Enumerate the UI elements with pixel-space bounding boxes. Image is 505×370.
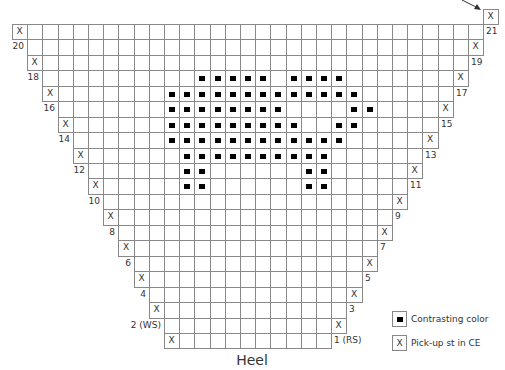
stitch-cell — [179, 302, 195, 319]
chart-caption: Heel — [212, 352, 292, 368]
row-label-3: 3 — [349, 302, 355, 317]
stitch-cell — [270, 70, 287, 87]
stitch-cell — [286, 271, 302, 288]
row-label-16: 16 — [44, 101, 55, 116]
stitch-cell — [407, 70, 423, 87]
stitch-cell — [286, 178, 302, 195]
stitch-cell — [407, 148, 423, 164]
stitch-cell — [255, 302, 271, 319]
stitch-cell — [194, 225, 211, 241]
contrasting-color-square — [336, 138, 342, 143]
stitch-cell — [210, 194, 226, 210]
stitch-cell — [255, 24, 271, 40]
stitch-cell — [301, 24, 317, 40]
stitch-cell — [149, 117, 165, 133]
stitch-cell — [316, 101, 332, 118]
stitch-cell — [301, 302, 317, 319]
stitch-cell — [240, 318, 256, 334]
stitch-cell — [362, 86, 378, 102]
stitch-cell — [73, 24, 89, 40]
stitch-cell — [103, 148, 119, 164]
row-label-8: 8 — [109, 225, 115, 240]
stitch-cell — [255, 39, 271, 56]
stitch-cell — [346, 194, 363, 210]
stitch-cell — [164, 178, 180, 195]
stitch-cell — [346, 209, 363, 226]
stitch-cell — [149, 194, 165, 210]
stitch-cell — [73, 70, 89, 87]
stitch-cell — [392, 39, 408, 56]
stitch-cell — [73, 39, 89, 56]
stitch-cell — [362, 240, 378, 257]
stitch-cell — [346, 271, 363, 288]
stitch-cell — [422, 117, 439, 133]
stitch-cell — [134, 256, 150, 272]
stitch-cell — [286, 333, 302, 349]
pickup-x-mark: X — [88, 178, 103, 193]
stitch-cell — [103, 39, 119, 56]
stitch-cell — [362, 163, 378, 179]
contrasting-color-square — [199, 154, 205, 159]
pickup-x-mark: X — [377, 225, 392, 240]
stitch-cell — [316, 55, 332, 71]
legend-contrasting-swatch — [392, 311, 407, 327]
stitch-cell — [134, 178, 150, 195]
stitch-cell — [194, 39, 211, 56]
stitch-cell — [316, 209, 332, 226]
stitch-cell — [270, 333, 287, 349]
contrasting-color-square — [245, 107, 251, 112]
stitch-cell — [118, 24, 135, 40]
contrasting-color-square — [321, 138, 327, 143]
stitch-cell — [179, 271, 195, 288]
stitch-cell — [362, 225, 378, 241]
stitch-cell — [240, 39, 256, 56]
stitch-cell — [194, 318, 211, 334]
contrasting-color-square — [245, 76, 251, 81]
row-label-1: 1 (RS) — [334, 333, 362, 348]
stitch-cell — [58, 39, 74, 56]
stitch-cell — [103, 132, 119, 149]
stitch-cell — [179, 24, 195, 40]
stitch-cell — [240, 24, 256, 40]
contrasting-color-square — [306, 138, 312, 143]
contrasting-color-square — [351, 92, 357, 97]
stitch-cell — [118, 86, 135, 102]
stitch-cell — [58, 101, 74, 118]
stitch-cell — [225, 194, 241, 210]
pickup-x-mark: X — [73, 148, 88, 163]
contrasting-color-square — [199, 184, 205, 189]
pickup-x-mark: X — [392, 194, 407, 209]
stitch-cell — [164, 39, 180, 56]
stitch-cell — [255, 209, 271, 226]
stitch-cell — [149, 148, 165, 164]
stitch-cell — [103, 101, 119, 118]
stitch-cell — [286, 24, 302, 40]
stitch-cell — [270, 225, 287, 241]
stitch-cell — [73, 132, 89, 149]
stitch-cell — [179, 333, 195, 349]
contrasting-color-square — [321, 154, 327, 159]
stitch-cell — [301, 240, 317, 257]
stitch-cell — [331, 39, 347, 56]
stitch-cell — [210, 178, 226, 195]
stitch-cell — [210, 318, 226, 334]
stitch-cell — [255, 163, 271, 179]
stitch-cell — [134, 86, 150, 102]
contrasting-color-square — [184, 138, 190, 143]
legend-pickup-swatch: X — [392, 335, 407, 351]
stitch-cell — [194, 24, 211, 40]
stitch-cell — [149, 132, 165, 149]
pickup-x-mark: X — [438, 101, 453, 116]
contrasting-color-square — [336, 76, 342, 81]
stitch-cell — [210, 24, 226, 40]
stitch-cell — [316, 333, 332, 349]
contrasting-color-square — [230, 154, 236, 159]
stitch-cell — [453, 55, 469, 71]
stitch-cell — [346, 225, 363, 241]
stitch-cell — [225, 39, 241, 56]
contrasting-color-square — [230, 92, 236, 97]
contrasting-color-square — [306, 76, 312, 81]
stitch-cell — [164, 209, 180, 226]
contrasting-color-square — [184, 169, 190, 174]
stitch-cell — [194, 256, 211, 272]
